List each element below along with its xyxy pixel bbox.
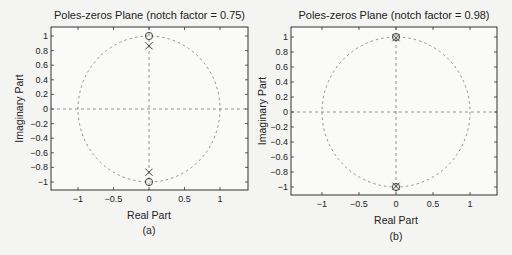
- chart-title: Poles-zeros Plane (notch factor = 0.98): [298, 9, 489, 21]
- y-tick-label: 0.8: [35, 46, 48, 56]
- y-tick-label: 0.2: [35, 89, 48, 99]
- x-tick-label: −1: [73, 194, 83, 204]
- x-tick-label: −0.5: [350, 199, 368, 209]
- y-tick-label: 0: [43, 104, 48, 114]
- x-tick-label: 1: [217, 194, 222, 204]
- y-tick-label: 0.8: [275, 47, 288, 57]
- chart-title: Poles-zeros Plane (notch factor = 0.75): [54, 9, 245, 21]
- y-tick-label: −0.2: [270, 122, 288, 132]
- pole-zero-figure: −1−0.500.5110.80.60.40.20−0.2−0.4−0.6−0.…: [0, 0, 512, 255]
- y-tick-label: 1: [43, 31, 48, 41]
- y-tick-label: −0.4: [30, 133, 48, 143]
- x-tick-label: 0: [393, 199, 398, 209]
- y-axis-label: Imaginary Part: [13, 74, 25, 142]
- y-tick-label: 0.4: [275, 77, 288, 87]
- x-tick-label: −0.5: [105, 194, 123, 204]
- y-tick-label: −0.6: [30, 148, 48, 158]
- y-tick-label: 0.2: [275, 92, 288, 102]
- chart-panel-b: −1−0.500.5110.80.60.40.20−0.2−0.4−0.6−0.…: [256, 9, 497, 242]
- y-tick-label: 0.4: [35, 75, 48, 85]
- y-tick-label: −0.8: [270, 167, 288, 177]
- y-tick-label: 1: [283, 32, 288, 42]
- y-axis-label: Imaginary Part: [256, 77, 268, 145]
- panel-label: (a): [143, 224, 156, 236]
- x-tick-label: 1: [467, 199, 472, 209]
- x-tick-label: 0.5: [178, 194, 191, 204]
- x-tick-label: −1: [317, 199, 327, 209]
- y-tick-label: 0: [283, 107, 288, 117]
- y-tick-label: −1: [278, 182, 288, 192]
- y-tick-label: −0.2: [30, 119, 48, 129]
- panel-label: (b): [390, 230, 403, 242]
- chart-panel-a: −1−0.500.5110.80.60.40.20−0.2−0.4−0.6−0.…: [13, 9, 248, 236]
- plot-area: [51, 27, 248, 190]
- y-tick-label: −0.4: [270, 137, 288, 147]
- y-tick-label: −0.6: [270, 152, 288, 162]
- x-axis-label: Real Part: [374, 214, 418, 226]
- x-tick-label: 0: [146, 194, 151, 204]
- x-tick-label: 0.5: [427, 199, 440, 209]
- plot-area: [291, 27, 497, 195]
- y-tick-label: −1: [38, 177, 48, 187]
- y-tick-label: 0.6: [35, 60, 48, 70]
- x-axis-label: Real Part: [127, 209, 171, 221]
- y-tick-label: −0.8: [30, 162, 48, 172]
- y-tick-label: 0.6: [275, 62, 288, 72]
